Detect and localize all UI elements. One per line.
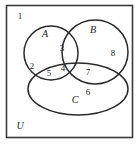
set-label-a: A — [41, 28, 49, 39]
set-label-b: B — [90, 24, 96, 35]
region-count-a-c: 5 — [47, 68, 52, 78]
venn-diagram-canvas: A B C U 1 2 3 4 5 6 7 8 — [0, 0, 140, 144]
region-count-outside: 1 — [18, 11, 23, 21]
venn-diagram-figure: A B C U 1 2 3 4 5 6 7 8 — [0, 0, 140, 144]
region-count-b-only: 8 — [111, 48, 116, 58]
set-c-ellipse — [28, 63, 128, 115]
universe-label: U — [16, 120, 24, 131]
set-label-c: C — [72, 94, 79, 105]
region-count-a-b-c: 4 — [61, 63, 66, 73]
region-count-a-only: 2 — [30, 61, 35, 71]
region-count-a-b: 3 — [60, 43, 65, 53]
region-count-c-only: 6 — [86, 87, 91, 97]
region-count-b-c: 7 — [86, 67, 91, 77]
